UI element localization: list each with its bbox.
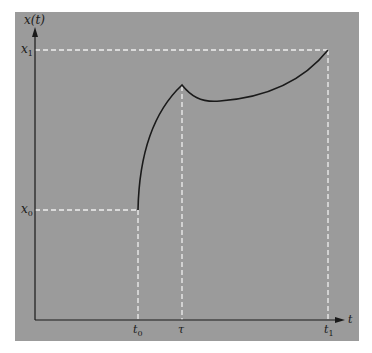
tau-tick-label: τ [178,323,185,336]
t1-tick-label: t1 [324,323,334,338]
x0-tick-label: x0 [21,202,33,218]
x1-tick-label: x1 [21,42,33,58]
trajectory-curve [138,50,328,210]
y-axis-arrow-icon [32,27,38,37]
trajectory-diagram: x(t) t x1 x0 t0 τ t1 [0,0,372,353]
x-axis-label: t [348,313,353,326]
x-axis-arrow-icon [335,317,345,323]
t0-tick-label: t0 [133,323,143,338]
y-axis-label: x(t) [24,13,45,27]
